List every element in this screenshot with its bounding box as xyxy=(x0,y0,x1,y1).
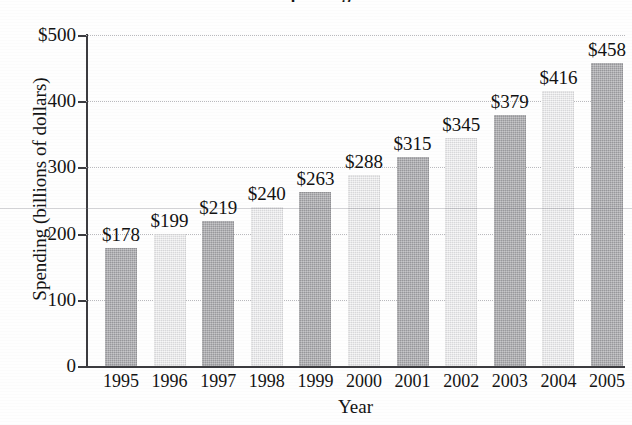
y-axis-tick xyxy=(78,35,86,37)
x-axis-tick-label: 2005 xyxy=(575,371,632,391)
bar xyxy=(251,207,283,366)
x-axis-title: Year xyxy=(86,396,625,418)
bar xyxy=(202,221,234,366)
x-axis-line xyxy=(86,366,625,368)
y-axis-tick xyxy=(78,101,86,103)
bar xyxy=(299,192,331,366)
bar xyxy=(591,63,623,366)
bar xyxy=(397,157,429,366)
y-axis-tick xyxy=(78,366,86,368)
bar-chart-figure: Spending 0100200300400$500 $178$199$219$… xyxy=(0,0,632,425)
bar-value-label: $458 xyxy=(567,40,632,59)
bar xyxy=(445,138,477,366)
bar xyxy=(348,175,380,366)
bar-value-label: $379 xyxy=(470,92,550,111)
bar-value-label: $345 xyxy=(421,115,501,134)
bar-value-label: $416 xyxy=(518,68,598,87)
bar-value-label: $263 xyxy=(275,169,355,188)
y-axis-tick xyxy=(78,300,86,302)
chart-title: Spending xyxy=(0,0,632,2)
bar xyxy=(154,234,186,366)
y-axis-title: Spending (billions of dollars) xyxy=(29,9,51,369)
bar xyxy=(542,91,574,366)
bar xyxy=(494,115,526,366)
bar xyxy=(105,248,137,366)
bar-value-label: $315 xyxy=(373,134,453,153)
bar-value-label: $288 xyxy=(324,152,404,171)
y-axis-tick xyxy=(78,167,86,169)
scan-seam xyxy=(0,208,632,209)
